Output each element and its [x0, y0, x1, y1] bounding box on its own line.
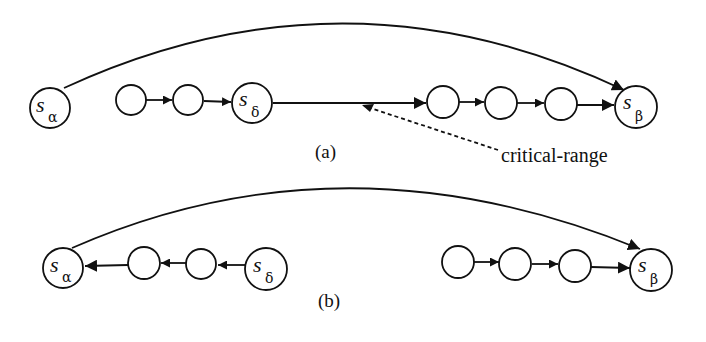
arc-edge-alpha-to-beta — [72, 188, 640, 249]
node-empty — [545, 88, 577, 120]
critical-range-arrowhead — [362, 104, 374, 112]
node-empty — [186, 249, 216, 279]
node-empty — [116, 85, 146, 115]
svg-text:s: s — [638, 252, 647, 277]
svg-text:s: s — [36, 92, 45, 117]
svg-text:δ: δ — [265, 270, 273, 286]
arc-edge-alpha-to-beta — [64, 23, 624, 90]
svg-text:β: β — [635, 108, 643, 124]
node-empty — [427, 86, 459, 118]
svg-text:α: α — [48, 109, 58, 125]
node-s-delta: s δ — [245, 248, 287, 290]
node-empty — [173, 85, 203, 115]
caption-b: (b) — [318, 290, 340, 312]
svg-text:s: s — [239, 86, 248, 111]
svg-text:s: s — [50, 252, 59, 277]
node-s-alpha: s α — [30, 88, 70, 128]
edge-n5-sbeta — [591, 267, 630, 268]
node-s-alpha: s α — [43, 248, 83, 288]
node-empty — [559, 250, 591, 282]
node-s-beta: s β — [630, 249, 672, 291]
critical-range-label: critical-range — [501, 144, 608, 167]
node-empty — [128, 247, 160, 279]
node-s-delta: s δ — [232, 83, 272, 123]
caption-a: (a) — [315, 141, 336, 163]
node-s-beta: s β — [615, 86, 657, 128]
svg-text:δ: δ — [251, 104, 259, 120]
svg-text:s: s — [623, 89, 632, 114]
diagram-a: s α s δ s β (a) critical-range — [30, 23, 657, 167]
svg-text:s: s — [253, 252, 262, 277]
node-empty — [442, 246, 474, 278]
diagram-b: s α s δ s β (b) — [43, 188, 672, 312]
svg-text:β: β — [650, 271, 658, 287]
node-empty — [485, 87, 517, 119]
edge-n2-sdelta — [204, 101, 231, 102]
node-empty — [499, 248, 531, 280]
svg-text:α: α — [62, 269, 72, 285]
edge-n1-salpha — [85, 265, 128, 266]
diagram-canvas: s α s δ s β (a) critical-range — [0, 0, 706, 342]
